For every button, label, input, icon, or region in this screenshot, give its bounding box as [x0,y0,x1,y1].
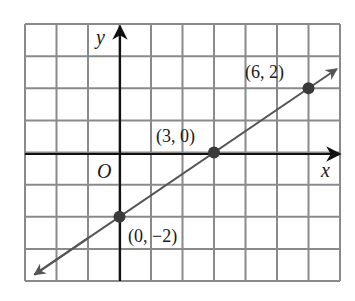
data-point [208,147,220,159]
data-point [303,82,315,94]
grid-lines [25,24,340,281]
origin-label: O [97,160,111,182]
data-point [114,211,126,223]
plotted-line [34,69,336,275]
x-axis-label: x [320,159,330,181]
point-label-6-2: (6, 2) [245,62,284,83]
point-label-3-0: (3, 0) [156,126,195,147]
coordinate-plane: y x O (0, −2) (3, 0) (6, 2) [0,0,355,301]
point-label-0-neg2: (0, −2) [128,226,177,247]
y-axis-label: y [94,26,105,49]
